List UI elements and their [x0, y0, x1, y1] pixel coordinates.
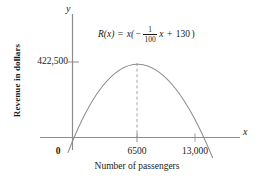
x-tick-label-13000: 13,000	[172, 147, 218, 157]
x-tick-label-0: 0	[52, 147, 64, 157]
x-axis-title: Number of passengers	[61, 162, 213, 172]
y-tick-label-422500: 422,500	[20, 57, 68, 67]
revenue-parabola-curve	[68, 64, 213, 157]
equation-times-variable: x	[159, 30, 163, 40]
equation-close-paren: )	[192, 30, 195, 40]
y-axis-title: Revenue in dollars	[13, 31, 22, 131]
equation-lhs: R(x)	[98, 30, 114, 40]
fraction-denominator: 100	[143, 36, 156, 44]
revenue-parabola-figure: Revenue in dollars Number of passengers …	[0, 0, 262, 179]
equation-fraction: 1 100	[143, 26, 156, 44]
equation-plus-sign: +	[165, 30, 174, 40]
equation-annotation: R(x) = x( − 1 100 x + 130 )	[98, 26, 195, 44]
y-axis-name-label: y	[66, 4, 70, 14]
x-tick-label-6500: 6500	[117, 147, 157, 157]
equation-factor: x(	[127, 30, 134, 40]
equation-minus-sign: −	[136, 30, 141, 40]
fraction-numerator: 1	[147, 26, 153, 34]
equation-equals: =	[116, 30, 125, 40]
equation-constant: 130	[176, 30, 190, 40]
x-axis-name-label: x	[243, 127, 247, 137]
